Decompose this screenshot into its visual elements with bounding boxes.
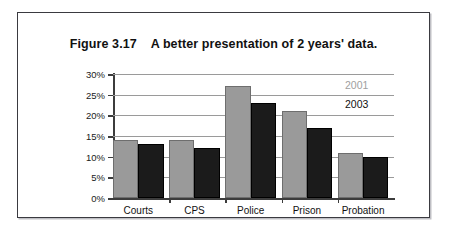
x-axis-label-courts: Courts — [124, 205, 153, 216]
bar-2001-probation — [338, 153, 363, 198]
bar-group — [338, 74, 394, 198]
figure-page: Figure 3.17 A better presentation of 2 y… — [0, 0, 450, 234]
bar-2003-cps — [194, 148, 219, 198]
bar-groups — [113, 74, 394, 198]
bar-group — [225, 74, 281, 198]
y-tick-mark — [108, 198, 113, 200]
legend-item-2001: 2001 — [345, 79, 368, 91]
x-tick-mark — [282, 198, 284, 203]
bar-2001-cps — [169, 140, 194, 198]
bar-2003-probation — [363, 157, 388, 198]
figure-title: Figure 3.17 A better presentation of 2 y… — [18, 37, 429, 51]
y-tick-label: 0% — [91, 193, 105, 204]
bar-group — [169, 74, 225, 198]
bar-2001-prison — [282, 111, 307, 198]
x-axis-label-police: Police — [237, 205, 264, 216]
x-axis-label-cps: CPS — [184, 205, 205, 216]
bar-2003-prison — [307, 128, 332, 198]
plot-area: 0%5%10%15%20%25%30% — [113, 74, 394, 198]
legend-item-2003: 2003 — [345, 98, 368, 110]
bar-2001-police — [225, 86, 250, 198]
y-tick-label: 30% — [86, 69, 105, 80]
x-axis-line — [113, 198, 395, 200]
x-tick-mark — [225, 198, 227, 203]
y-tick-label: 20% — [86, 110, 105, 121]
bar-group — [113, 74, 169, 198]
bar-2003-courts — [138, 144, 163, 198]
x-axis-label-prison: Prison — [293, 205, 321, 216]
y-tick-label: 10% — [86, 151, 105, 162]
y-tick-label: 25% — [86, 89, 105, 100]
figure-frame: Figure 3.17 A better presentation of 2 y… — [17, 12, 430, 218]
x-tick-mark — [338, 198, 340, 203]
x-tick-mark — [169, 198, 171, 203]
y-tick-label: 15% — [86, 131, 105, 142]
y-tick-label: 5% — [91, 172, 105, 183]
bar-2001-courts — [113, 140, 138, 198]
bar-group — [282, 74, 338, 198]
x-axis-label-probation: Probation — [342, 205, 385, 216]
bar-2003-police — [251, 103, 276, 198]
